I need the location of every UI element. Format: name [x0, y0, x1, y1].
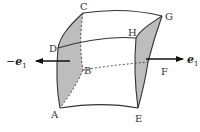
vertex-label-f: F: [161, 67, 168, 77]
vertex-label-g: G: [165, 12, 173, 22]
vertex-label-d: D: [49, 44, 57, 54]
vertex-label-h: H: [128, 28, 137, 38]
vector-label-positive-e1: e1: [187, 54, 198, 68]
vertex-label-c: C: [80, 2, 88, 12]
vector-subscript: 1: [194, 60, 198, 68]
vertex-label-e: E: [135, 114, 142, 124]
vertex-label-a: A: [51, 110, 58, 120]
vector-symbol: e: [187, 53, 194, 66]
vector-label-negative-e1: −e1: [6, 56, 27, 70]
vector-sign: −: [6, 55, 15, 68]
vector-subscript: 1: [22, 62, 26, 70]
vertex-label-b: B: [84, 66, 91, 76]
